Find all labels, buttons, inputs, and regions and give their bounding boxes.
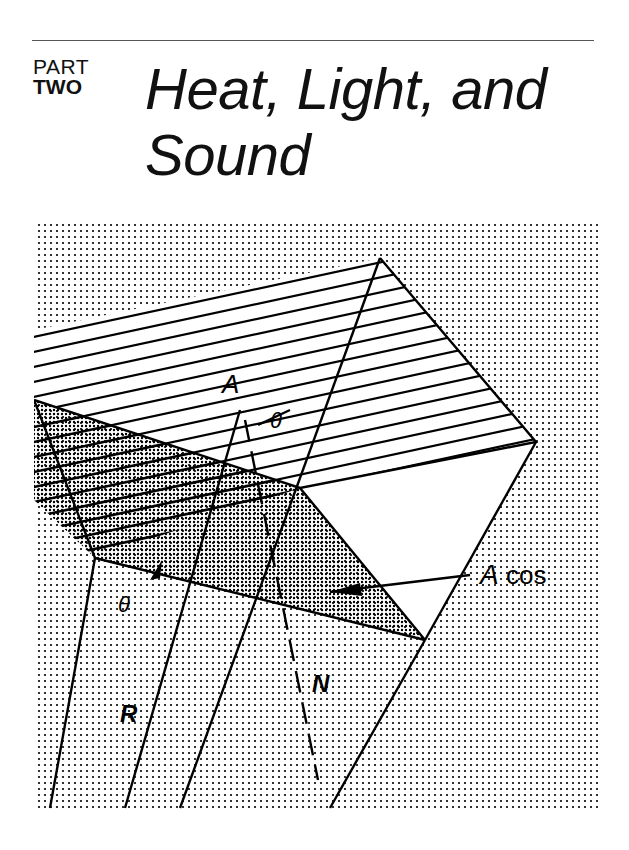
header-rule <box>32 40 594 41</box>
title-line-1: Heat, Light, and <box>145 56 547 122</box>
part-label: PART <box>33 56 89 77</box>
label-projected-fn: cos <box>506 560 546 590</box>
page-title: Heat, Light, and Sound <box>145 56 547 188</box>
figure-area-projection: A θ θ θ A cos R N <box>34 222 598 810</box>
title-line-2: Sound <box>145 122 547 188</box>
label-projected-var: A <box>478 559 499 590</box>
label-theta-top: θ <box>270 408 282 433</box>
part-number: TWO <box>33 76 89 97</box>
label-ray: R <box>120 700 138 727</box>
label-normal: N <box>312 670 330 697</box>
part-marker: PART TWO <box>33 56 89 97</box>
label-area: A <box>220 369 239 399</box>
label-theta-left: θ <box>118 592 130 617</box>
